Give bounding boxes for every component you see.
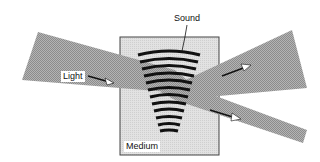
diagram-canvas: [0, 0, 320, 162]
light-label: Light: [61, 71, 85, 82]
medium-label: Medium: [124, 141, 160, 152]
sound-label: Sound: [174, 13, 200, 24]
